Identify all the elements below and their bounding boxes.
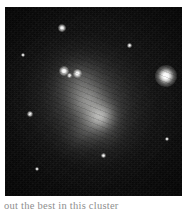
edge-vignette [5,7,182,196]
caption-text: out the best in this cluster [4,199,178,212]
caption-block: out the best in this cluster [4,199,178,213]
astronomical-photograph [5,7,182,196]
document-page: out the best in this cluster [0,0,182,213]
